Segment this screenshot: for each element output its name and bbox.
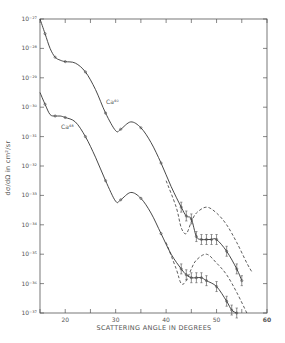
series-label-ca48: Ca⁴⁸ <box>61 123 74 130</box>
y-tick-label: 10⁻²⁸ <box>21 44 37 51</box>
y-tick-label: 10⁻³⁰ <box>21 103 37 110</box>
x-tick-label: 60 <box>263 316 271 323</box>
plot-border <box>40 19 267 313</box>
x-tick-label: 20 <box>61 316 69 323</box>
y-tick-label: 10⁻³⁷ <box>21 309 37 316</box>
data-points <box>44 33 243 318</box>
y-tick-label: 10⁻³⁵ <box>21 250 37 257</box>
y-tick-label: 10⁻²⁷ <box>21 15 37 22</box>
plot-frame <box>40 19 267 313</box>
x-tick-label: 50 <box>213 316 221 323</box>
y-tick-label: 10⁻³⁴ <box>21 221 37 228</box>
curve-ca40-dashed <box>166 181 252 272</box>
x-tick-label: 30 <box>112 316 120 323</box>
y-tick-label: 10⁻³¹ <box>21 133 37 140</box>
y-tick-label: 10⁻³² <box>21 162 37 169</box>
y-axis-title: dσ/dΩ in cm²/sr <box>4 141 12 196</box>
curves <box>40 19 252 313</box>
y-axis-ticks: 10⁻²⁷10⁻²⁸10⁻²⁹10⁻³⁰10⁻³¹10⁻³²10⁻³³10⁻³⁴… <box>21 15 267 316</box>
y-tick-label: 10⁻³⁶ <box>21 280 37 287</box>
y-tick-label: 10⁻³³ <box>21 191 37 198</box>
y-tick-label: 10⁻²⁹ <box>21 74 37 81</box>
x-tick-label: 40 <box>162 316 170 323</box>
series-label-ca40: Ca⁴⁰ <box>106 98 119 105</box>
cross-section-chart: 2030405060 10⁻²⁷10⁻²⁸10⁻²⁹10⁻³⁰10⁻³¹10⁻³… <box>0 0 285 343</box>
x-axis-ticks: 2030405060 <box>40 19 271 323</box>
x-axis-title: SCATTERING ANGLE IN DEGREES <box>96 324 211 332</box>
